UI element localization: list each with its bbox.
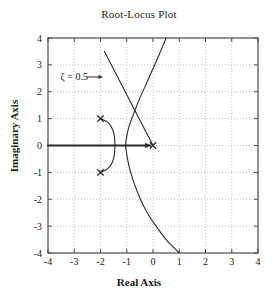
root-locus-figure: Root-Locus Plot -4-3-2-101234-4-3-2-1012… <box>0 0 278 296</box>
y-axis-label: Imaginary Axis <box>8 76 20 196</box>
svg-text:3: 3 <box>37 59 42 70</box>
svg-text:2: 2 <box>203 256 208 267</box>
svg-text:1: 1 <box>177 256 182 267</box>
svg-text:-2: -2 <box>34 194 42 205</box>
svg-text:-1: -1 <box>123 256 131 267</box>
svg-text:1: 1 <box>37 113 42 124</box>
svg-text:4: 4 <box>37 33 42 44</box>
plot-canvas: -4-3-2-101234-4-3-2-101234 ζ = 0.5 <box>0 0 278 296</box>
svg-text:ζ = 0.5: ζ = 0.5 <box>61 71 88 83</box>
tick-labels: -4-3-2-101234-4-3-2-101234 <box>34 33 261 268</box>
svg-text:-4: -4 <box>44 256 52 267</box>
zeta-annotation: ζ = 0.5 <box>61 71 104 83</box>
svg-text:-1: -1 <box>34 167 42 178</box>
svg-text:-3: -3 <box>34 221 42 232</box>
series-upward-branch <box>125 38 166 146</box>
svg-text:2: 2 <box>37 86 42 97</box>
svg-text:4: 4 <box>256 256 261 267</box>
series-zeta-damping-line <box>104 51 153 145</box>
annotations: ζ = 0.5 <box>61 71 104 83</box>
svg-text:-3: -3 <box>70 256 78 267</box>
svg-text:-2: -2 <box>96 256 104 267</box>
svg-text:-4: -4 <box>34 248 42 259</box>
series-real-axis-locus <box>48 143 150 147</box>
svg-text:3: 3 <box>229 256 234 267</box>
svg-text:0: 0 <box>37 140 42 151</box>
svg-text:0: 0 <box>151 256 156 267</box>
x-axis-label: Real Axis <box>0 276 278 288</box>
